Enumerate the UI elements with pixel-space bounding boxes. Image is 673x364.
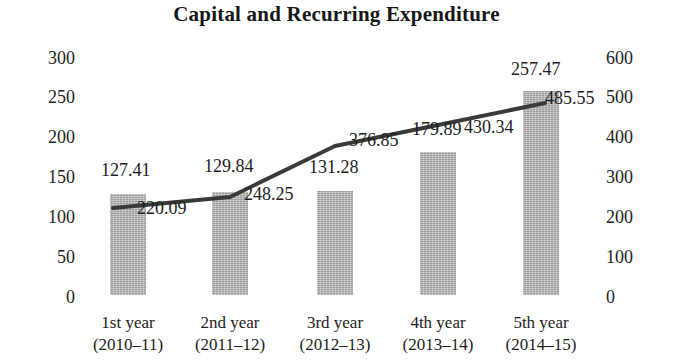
bar-label-4th-year: 179.89 <box>412 120 462 138</box>
bar-label-1st-year: 127.41 <box>101 161 151 179</box>
line-label-4th-year: 430.34 <box>464 118 514 136</box>
category-label-5th-year-line2: (2014–15) <box>481 334 601 356</box>
category-label-4th-year: 4th year (2013–14) <box>378 312 498 356</box>
line-label-5th-year: 485.55 <box>545 89 595 107</box>
bar-3rd-year <box>317 191 353 295</box>
chart-container: Capital and Recurring Expenditure 300 25… <box>0 0 673 364</box>
category-label-2nd-year-line2: (2011–12) <box>170 334 290 356</box>
right-axis-tick-500: 500 <box>606 88 668 106</box>
line-label-3rd-year: 376.85 <box>349 131 399 149</box>
category-label-3rd-year: 3rd year (2012–13) <box>275 312 395 356</box>
bar-5th-year <box>523 91 559 295</box>
bar-label-2nd-year: 129.84 <box>204 157 254 175</box>
right-axis-tick-100: 100 <box>606 248 668 266</box>
bar-2nd-year <box>212 192 248 295</box>
right-axis-tick-200: 200 <box>606 208 668 226</box>
right-axis-tick-0: 0 <box>606 288 668 306</box>
right-axis-tick-600: 600 <box>606 49 668 67</box>
line-label-1st-year: 220.09 <box>137 199 187 217</box>
chart-title: Capital and Recurring Expenditure <box>0 2 673 27</box>
left-axis-tick-150: 150 <box>13 168 75 186</box>
category-label-2nd-year: 2nd year (2011–12) <box>170 312 290 356</box>
left-axis-tick-250: 250 <box>13 88 75 106</box>
left-axis-tick-0: 0 <box>13 288 75 306</box>
category-label-4th-year-line2: (2013–14) <box>378 334 498 356</box>
left-axis-tick-300: 300 <box>13 49 75 67</box>
category-label-2nd-year-line1: 2nd year <box>170 312 290 334</box>
right-axis-tick-300: 300 <box>606 168 668 186</box>
left-axis-tick-200: 200 <box>13 128 75 146</box>
bar-4th-year <box>420 152 456 295</box>
category-label-3rd-year-line1: 3rd year <box>275 312 395 334</box>
category-label-3rd-year-line2: (2012–13) <box>275 334 395 356</box>
category-label-4th-year-line1: 4th year <box>378 312 498 334</box>
category-label-5th-year: 5th year (2014–15) <box>481 312 601 356</box>
category-label-5th-year-line1: 5th year <box>481 312 601 334</box>
bar-label-3rd-year: 131.28 <box>309 158 359 176</box>
bar-label-5th-year: 257.47 <box>511 60 561 78</box>
right-axis-tick-400: 400 <box>606 128 668 146</box>
left-axis-tick-50: 50 <box>13 248 75 266</box>
left-axis-tick-100: 100 <box>13 208 75 226</box>
line-label-2nd-year: 248.25 <box>244 185 294 203</box>
recurring-expenditure-line <box>0 0 673 364</box>
